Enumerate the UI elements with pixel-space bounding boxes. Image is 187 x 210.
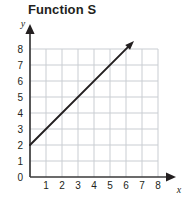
x-tick-label: 7 <box>139 180 145 191</box>
x-axis-tick-labels: 12345678 <box>43 180 161 191</box>
gridlines <box>30 49 158 177</box>
x-tick-label: 5 <box>107 180 113 191</box>
function-graph: 12345678 012345678 x y <box>0 0 187 210</box>
axis-lines <box>25 24 176 182</box>
x-tick-label: 3 <box>75 180 81 191</box>
function-line <box>30 47 128 145</box>
x-axis-arrowhead <box>166 172 176 181</box>
y-tick-label: 0 <box>17 172 23 183</box>
y-tick-label: 5 <box>17 92 23 103</box>
x-tick-label: 1 <box>43 180 49 191</box>
y-tick-label: 6 <box>17 76 23 87</box>
y-tick-label: 8 <box>17 44 23 55</box>
x-tick-label: 4 <box>91 180 97 191</box>
x-axis-label: x <box>176 184 182 195</box>
y-tick-label: 4 <box>17 108 23 119</box>
y-tick-label: 7 <box>17 60 23 71</box>
y-tick-label: 1 <box>17 156 23 167</box>
chart-figure: Function S 12345678 012345678 x y <box>0 0 187 210</box>
x-tick-label: 2 <box>59 180 65 191</box>
x-tick-label: 6 <box>123 180 129 191</box>
y-tick-label: 3 <box>17 124 23 135</box>
y-tick-label: 2 <box>17 140 23 151</box>
x-tick-label: 8 <box>155 180 161 191</box>
y-axis-tick-labels: 012345678 <box>17 44 23 183</box>
y-axis-arrowhead <box>25 24 34 34</box>
y-axis-label: y <box>20 18 26 29</box>
